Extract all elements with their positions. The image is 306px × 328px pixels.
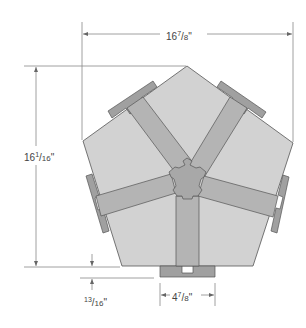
height-dimension-label: 161/16"	[24, 149, 54, 165]
spline-bottom	[176, 196, 199, 266]
cap-width-dimension-label: 47/8"	[172, 289, 192, 305]
cap-offset-dimension-label: 13/16"	[84, 294, 107, 310]
width-dimension-label: 167/8"	[166, 28, 192, 44]
